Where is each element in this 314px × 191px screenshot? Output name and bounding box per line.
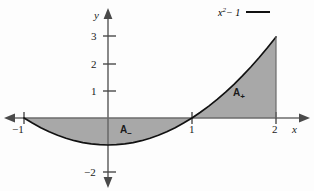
y-axis-label: y	[94, 10, 99, 21]
x-tick-label-neg1: −1	[12, 124, 24, 135]
x-axis-arrow-right	[299, 113, 310, 122]
region-label-a-minus: A−	[120, 125, 132, 138]
x-tick-label-2: 2	[272, 124, 278, 135]
y-tick-label-2: 2	[91, 59, 97, 70]
legend-entry-label: x2− 1	[218, 6, 240, 18]
x-axis-label: x	[292, 124, 297, 135]
x-tick-label-1: 1	[189, 124, 195, 135]
y-axis-arrow-up	[104, 8, 113, 19]
y-axis-arrow-down	[104, 177, 113, 188]
y-tick-label-3: 3	[91, 31, 97, 42]
legend: x2− 1	[218, 6, 270, 18]
shaded-region-a-plus	[192, 37, 276, 118]
figure-container: y x 3 2 1 −2 −1 1 2 A− A+ x2− 1	[0, 0, 314, 191]
legend-line-swatch	[246, 11, 270, 13]
chart-canvas	[0, 0, 314, 191]
region-label-a-plus-sub: +	[240, 92, 245, 101]
x-axis-arrow-left	[4, 113, 15, 122]
y-tick-label-neg2: −2	[84, 167, 96, 178]
y-tick-label-1: 1	[91, 86, 97, 97]
region-label-a-minus-sub: −	[127, 129, 132, 138]
legend-label-rest: − 1	[226, 7, 240, 18]
region-label-a-plus: A+	[233, 88, 245, 101]
